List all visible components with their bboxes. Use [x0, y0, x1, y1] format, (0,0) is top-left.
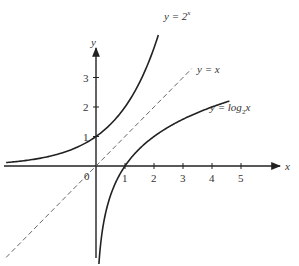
- curve-label-logarithm: y = log2x: [209, 101, 250, 116]
- curve-identity: [6, 69, 192, 258]
- x-tick-label: 2: [151, 172, 157, 184]
- x-tick-label: 5: [238, 172, 244, 184]
- curve-exponential: [6, 35, 158, 162]
- curve-label-identity: y = x: [196, 63, 220, 75]
- x-tick-label: 3: [180, 172, 186, 184]
- axes: [4, 48, 280, 258]
- x-tick-label: 4: [209, 172, 215, 184]
- exponential-log-graph: 12345 123 0 x y y = 2x y = x y = log2x: [0, 0, 299, 266]
- y-tick-label: 2: [83, 101, 89, 113]
- curve-label-exponential: y = 2x: [163, 9, 191, 22]
- x-tick-label: 1: [122, 172, 128, 184]
- y-axis-label: y: [90, 36, 96, 48]
- y-tick-label: 3: [83, 72, 89, 84]
- origin-label: 0: [84, 170, 90, 182]
- y-tick-label: 1: [83, 131, 89, 143]
- curves: [6, 35, 229, 264]
- x-axis-label: x: [284, 160, 290, 172]
